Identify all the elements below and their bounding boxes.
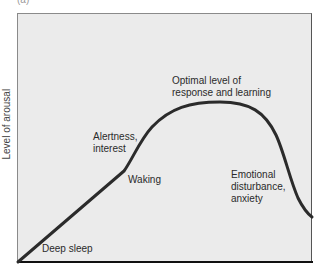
alertness-line-2: interest xyxy=(93,143,137,155)
optimal-line-1: Optimal level of xyxy=(172,75,271,87)
alertness-line-1: Alertness, xyxy=(93,131,137,143)
arousal-curve xyxy=(0,0,318,266)
deep-sleep-label: Deep sleep xyxy=(42,243,93,255)
emotional-line-2: disturbance, xyxy=(231,181,285,193)
optimal-level-label: Optimal level of response and learning xyxy=(172,75,271,99)
alertness-label: Alertness, interest xyxy=(93,131,137,155)
emotional-line-1: Emotional xyxy=(231,169,285,181)
y-axis-label: Level of arousal xyxy=(1,94,12,160)
waking-label: Waking xyxy=(128,174,161,186)
emotional-disturbance-label: Emotional disturbance, anxiety xyxy=(231,169,285,205)
emotional-line-3: anxiety xyxy=(231,193,285,205)
optimal-line-2: response and learning xyxy=(172,87,271,99)
